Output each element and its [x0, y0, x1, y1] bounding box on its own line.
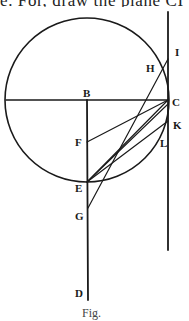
label-c: C — [172, 96, 180, 108]
line-gi — [88, 59, 168, 208]
line-fc — [87, 100, 168, 142]
label-f: F — [75, 136, 82, 148]
label-k: K — [173, 119, 182, 131]
label-h: H — [146, 62, 155, 74]
vertical-line-bd — [87, 100, 88, 300]
label-g: G — [75, 210, 84, 222]
label-l: L — [160, 137, 167, 149]
label-d: D — [75, 287, 83, 299]
label-i: I — [175, 46, 179, 58]
label-e: E — [75, 182, 82, 194]
line-ek — [87, 121, 168, 182]
figure-caption-fragment: Fig. — [82, 306, 101, 321]
line-e-middle — [87, 104, 168, 182]
label-b: B — [83, 87, 91, 99]
